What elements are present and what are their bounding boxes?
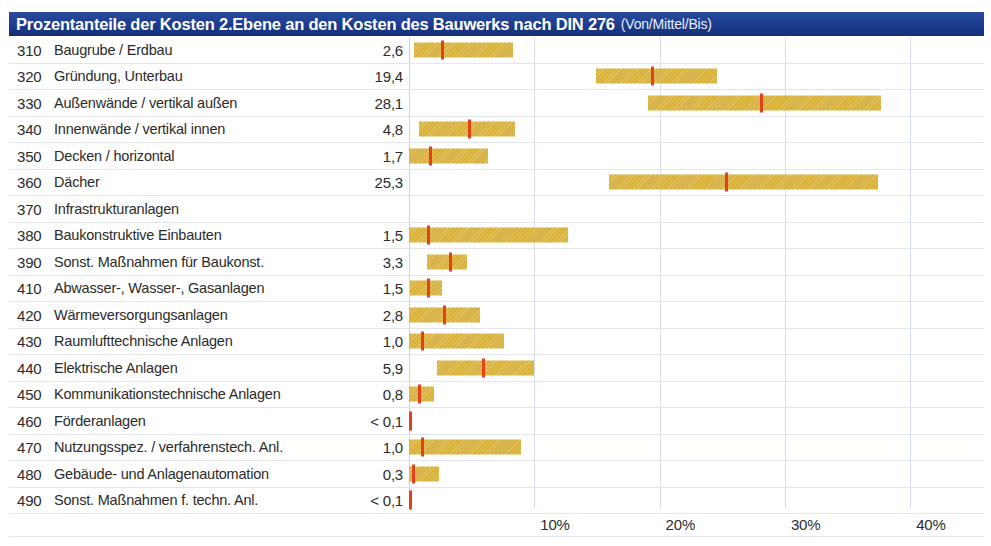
row-label: Dächer xyxy=(54,174,100,190)
row-label: Förderanlagen xyxy=(54,413,146,429)
row-value: < 0,1 xyxy=(289,412,403,429)
row-label: Wärmeversorgungsanlagen xyxy=(54,307,228,323)
row-code: 490 xyxy=(17,492,41,509)
row-code: 460 xyxy=(17,412,41,429)
row-value: 25,3 xyxy=(289,174,403,191)
row-value: 2,6 xyxy=(289,41,403,58)
row-value: < 0,1 xyxy=(289,492,403,509)
row-code: 330 xyxy=(17,94,41,111)
table-row[interactable]: 470Nutzungsspez. / verfahrenstech. Anl.1… xyxy=(9,435,984,462)
mean-marker xyxy=(412,464,415,483)
row-code: 350 xyxy=(17,147,41,164)
row-value: 1,5 xyxy=(289,280,403,297)
mean-marker xyxy=(429,146,432,165)
range-bar xyxy=(409,148,488,163)
row-code: 380 xyxy=(17,227,41,244)
table-row[interactable]: 480Gebäude- und Anlagenautomation0,3 xyxy=(9,461,984,488)
row-label: Sonst. Maßnahmen für Baukonst. xyxy=(54,254,264,270)
row-value: 4,8 xyxy=(289,121,403,138)
row-label: Außenwände / vertikal außen xyxy=(54,95,237,111)
row-code: 430 xyxy=(17,333,41,350)
mean-marker xyxy=(409,491,412,510)
row-value: 3,3 xyxy=(289,253,403,270)
row-label: Gebäude- und Anlagenautomation xyxy=(54,466,269,482)
axis-tick-label: 10% xyxy=(540,516,569,533)
table-row[interactable]: 380Baukonstruktive Einbauten1,5 xyxy=(9,223,984,250)
row-value: 0,3 xyxy=(289,465,403,482)
table-row[interactable]: 340Innenwände / vertikal innen4,8 xyxy=(9,117,984,144)
row-code: 320 xyxy=(17,68,41,85)
mean-marker xyxy=(760,93,763,112)
row-value: 1,0 xyxy=(289,333,403,350)
row-code: 410 xyxy=(17,280,41,297)
page-title: Prozentanteile der Kosten 2.Ebene an den… xyxy=(16,15,615,34)
table-row[interactable]: 360Dächer25,3 xyxy=(9,170,984,197)
row-label: Elektrische Anlagen xyxy=(54,360,178,376)
mean-marker xyxy=(725,173,728,192)
row-label: Abwasser-, Wasser-, Gasanlagen xyxy=(54,280,264,296)
range-bar xyxy=(409,440,521,455)
table-row[interactable]: 420Wärmeversorgungsanlagen2,8 xyxy=(9,302,984,329)
mean-marker xyxy=(468,120,471,139)
mean-marker xyxy=(427,226,430,245)
row-value: 19,4 xyxy=(289,68,403,85)
table-row[interactable]: 450Kommunikationstechnische Anlagen0,8 xyxy=(9,382,984,409)
range-bar xyxy=(409,228,568,243)
row-code: 440 xyxy=(17,359,41,376)
range-bar xyxy=(414,42,513,57)
row-value: 28,1 xyxy=(289,94,403,111)
range-bar xyxy=(596,69,718,84)
row-value: 0,8 xyxy=(289,386,403,403)
row-value: 1,0 xyxy=(289,439,403,456)
row-label: Gründung, Unterbau xyxy=(54,68,183,84)
row-code: 480 xyxy=(17,465,41,482)
row-value: 2,8 xyxy=(289,306,403,323)
x-axis: 10%20%30%40% xyxy=(9,509,984,537)
row-label: Nutzungsspez. / verfahrenstech. Anl. xyxy=(54,439,283,455)
table-row[interactable]: 350Decken / horizontal1,7 xyxy=(9,143,984,170)
range-bar xyxy=(609,175,877,190)
row-code: 340 xyxy=(17,121,41,138)
row-label: Baukonstruktive Einbauten xyxy=(54,227,222,243)
chart-body: 310Baugrube / Erdbau2,6320Gründung, Unte… xyxy=(9,37,984,537)
table-row[interactable]: 440Elektrische Anlagen5,9 xyxy=(9,355,984,382)
row-label: Baugrube / Erdbau xyxy=(54,42,172,58)
range-bar xyxy=(409,387,434,402)
mean-marker xyxy=(651,67,654,86)
row-code: 310 xyxy=(17,41,41,58)
row-label: Decken / horizontal xyxy=(54,148,174,164)
row-label: Sonst. Maßnahmen f. techn. Anl. xyxy=(54,492,258,508)
table-row[interactable]: 460Förderanlagen< 0,1 xyxy=(9,408,984,435)
table-row[interactable]: 410Abwasser-, Wasser-, Gasanlagen1,5 xyxy=(9,276,984,303)
mean-marker xyxy=(427,279,430,298)
row-value: 1,5 xyxy=(289,227,403,244)
mean-marker xyxy=(482,358,485,377)
row-label: Kommunikationstechnische Anlagen xyxy=(54,386,281,402)
row-value: 5,9 xyxy=(289,359,403,376)
mean-marker xyxy=(418,385,421,404)
row-code: 470 xyxy=(17,439,41,456)
range-bar xyxy=(427,254,467,269)
row-label: Innenwände / vertikal innen xyxy=(54,121,225,137)
table-row[interactable]: 390Sonst. Maßnahmen für Baukonst.3,3 xyxy=(9,249,984,276)
mean-marker xyxy=(421,438,424,457)
chart-title-bar: Prozentanteile der Kosten 2.Ebene an den… xyxy=(9,12,984,36)
range-bar xyxy=(648,95,881,110)
range-bar xyxy=(437,360,535,375)
row-code: 370 xyxy=(17,200,41,217)
axis-baseline xyxy=(9,536,984,537)
axis-tick-label: 20% xyxy=(666,516,695,533)
mean-marker xyxy=(449,252,452,271)
mean-marker xyxy=(443,305,446,324)
table-row[interactable]: 370Infrastrukturanlagen xyxy=(9,196,984,223)
table-row[interactable]: 320Gründung, Unterbau19,4 xyxy=(9,64,984,91)
table-row[interactable]: 430Raumlufttechnische Anlagen1,0 xyxy=(9,329,984,356)
table-row[interactable]: 330Außenwände / vertikal außen28,1 xyxy=(9,90,984,117)
mean-marker xyxy=(421,332,424,351)
table-row[interactable]: 310Baugrube / Erdbau2,6 xyxy=(9,37,984,64)
axis-tick-label: 40% xyxy=(916,516,945,533)
row-code: 420 xyxy=(17,306,41,323)
axis-tick-label: 30% xyxy=(791,516,820,533)
row-code: 360 xyxy=(17,174,41,191)
chart-page: Prozentanteile der Kosten 2.Ebene an den… xyxy=(0,0,991,546)
